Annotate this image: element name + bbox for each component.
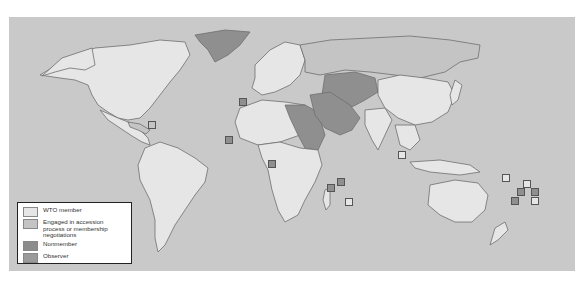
region-new-zealand xyxy=(490,222,508,245)
territory-marker-member xyxy=(398,151,406,159)
region-greenland xyxy=(195,30,250,62)
territory-marker-nonmember xyxy=(517,188,525,196)
region-sub-saharan-africa xyxy=(258,142,322,222)
territory-marker-nonmember xyxy=(337,178,345,186)
legend-label: Observer xyxy=(43,253,68,260)
territory-marker-nonmember xyxy=(225,136,233,144)
legend-swatch xyxy=(23,207,38,217)
map-legend: WTO member Engaged in accession process … xyxy=(17,202,132,264)
region-australia xyxy=(428,180,488,222)
territory-marker-member xyxy=(502,174,510,182)
region-north-america xyxy=(40,40,190,120)
territory-marker-nonmember xyxy=(239,98,247,106)
legend-swatch xyxy=(23,253,38,263)
region-south-america xyxy=(138,142,208,252)
legend-label: Nonmember xyxy=(43,241,77,248)
region-southeast-asia xyxy=(395,125,420,150)
territory-marker-nonmember xyxy=(327,184,335,192)
legend-label: Engaged in accession process or membersh… xyxy=(43,219,126,239)
region-russia xyxy=(300,36,480,78)
legend-label: WTO member xyxy=(43,207,82,214)
territory-marker-member xyxy=(531,197,539,205)
region-india xyxy=(365,108,392,150)
region-indonesia xyxy=(410,160,480,175)
region-europe xyxy=(252,42,305,95)
legend-item-observer: Observer xyxy=(23,253,126,263)
territory-marker-member xyxy=(523,180,531,188)
territory-marker-accession xyxy=(148,121,156,129)
legend-swatch xyxy=(23,219,38,229)
legend-item-wto-member: WTO member xyxy=(23,207,126,217)
legend-swatch xyxy=(23,241,38,251)
region-japan xyxy=(450,80,462,105)
legend-item-accession: Engaged in accession process or membersh… xyxy=(23,219,126,239)
territory-marker-member xyxy=(345,198,353,206)
territory-marker-nonmember xyxy=(531,188,539,196)
legend-item-nonmember: Nonmember xyxy=(23,241,126,251)
territory-marker-nonmember xyxy=(511,197,519,205)
territory-marker-nonmember xyxy=(268,160,276,168)
